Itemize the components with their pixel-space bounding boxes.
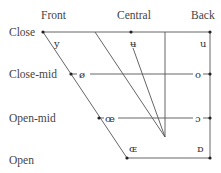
- dot-open-mid-back: [208, 116, 211, 119]
- row-label-open-mid: Open-mid: [9, 112, 56, 125]
- vowel-barred-u: ʉ: [130, 38, 137, 49]
- vowel-dots: [41, 30, 211, 159]
- dot-close-back: [208, 30, 211, 33]
- dot-close-central: [129, 30, 132, 33]
- vowel-oe: œ: [105, 113, 115, 124]
- vowel-turned-alpha: ɒ: [197, 143, 204, 154]
- vowel-o-slash: ø: [79, 69, 85, 80]
- row-label-open: Open: [9, 154, 34, 167]
- column-label-back: Back: [191, 9, 215, 21]
- dot-close-front: [41, 30, 44, 33]
- chart-lines: [43, 32, 210, 158]
- dot-open-mid-front: [97, 116, 100, 119]
- converging-line-2: [133, 48, 165, 137]
- dot-open-front: [125, 156, 128, 159]
- vowel-open-o: ɔ: [195, 113, 201, 124]
- vowel-o: o: [195, 69, 201, 80]
- dot-close-mid-back: [208, 72, 211, 75]
- row-label-close: Close: [9, 26, 35, 38]
- dot-open-back: [208, 156, 211, 159]
- column-label-central: Central: [117, 9, 151, 21]
- vowel-chart: Front Central Back Close Close-mid Open-…: [0, 0, 221, 173]
- vowel-y: y: [53, 38, 60, 49]
- column-label-front: Front: [41, 9, 67, 21]
- dot-close-mid-front: [69, 72, 72, 75]
- vowel-small-cap-oe: ɶ: [129, 143, 137, 154]
- front-edge-line: [43, 32, 127, 158]
- row-label-close-mid: Close-mid: [9, 68, 57, 80]
- vowel-u: u: [200, 38, 207, 49]
